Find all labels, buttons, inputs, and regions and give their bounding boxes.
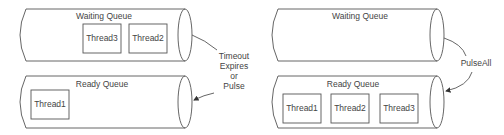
thread-box: Thread1 [283, 94, 321, 123]
svg-text:Pulse: Pulse [223, 81, 245, 91]
waiting-queue-cylinder: Waiting Queue [272, 9, 444, 61]
svg-text:Timeout: Timeout [219, 51, 250, 61]
transition-line [192, 35, 217, 50]
svg-text:Thread3: Thread3 [86, 33, 118, 43]
thread-box: Thread2 [331, 94, 369, 123]
svg-text:Thread2: Thread2 [334, 103, 366, 113]
thread-box: Thread1 [31, 90, 69, 119]
transition-label: Timeout Expires or Pulse [219, 51, 250, 91]
waiting-queue-cylinder: Waiting Queue Thread3 Thread2 [20, 9, 192, 61]
thread-box: Thread3 [83, 24, 121, 53]
ready-queue-cylinder: Ready Queue Thread1 Thread2 Thread3 [272, 76, 444, 128]
svg-text:Thread1: Thread1 [286, 103, 318, 113]
waiting-queue-label: Waiting Queue [76, 11, 132, 21]
ready-queue-cylinder: Ready Queue Thread1 [20, 76, 192, 128]
thread-box: Thread3 [380, 94, 418, 123]
transition-arrow [194, 93, 214, 100]
ready-queue-label: Ready Queue [327, 79, 380, 89]
right-diagram: Waiting Queue Ready Queue Thread1 Thread… [272, 9, 491, 128]
svg-text:Thread1: Thread1 [34, 99, 66, 109]
left-diagram: Waiting Queue Thread3 Thread2 Ready Queu… [20, 9, 250, 128]
thread-box: Thread2 [129, 24, 167, 53]
svg-text:Expires: Expires [220, 61, 248, 71]
transition-label: PulseAll [461, 58, 492, 68]
ready-queue-label: Ready Queue [76, 79, 129, 89]
transition-line [444, 38, 466, 56]
thread-queue-diagram: Waiting Queue Thread3 Thread2 Ready Queu… [0, 0, 504, 135]
transition-arrow [446, 72, 472, 91]
waiting-queue-label: Waiting Queue [332, 11, 388, 21]
svg-text:Thread2: Thread2 [132, 33, 164, 43]
svg-text:Thread3: Thread3 [383, 103, 415, 113]
svg-text:or: or [230, 71, 238, 81]
